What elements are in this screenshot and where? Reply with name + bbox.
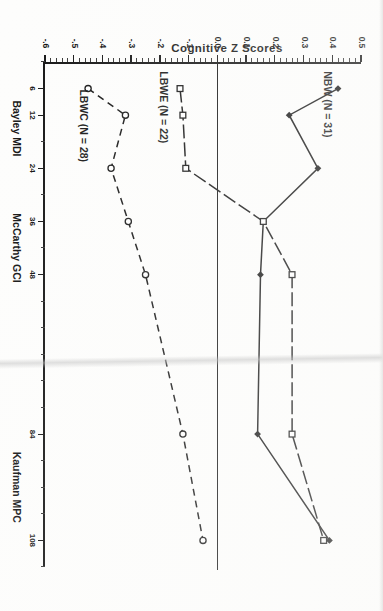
data-point-marker — [257, 271, 264, 278]
data-point-marker — [177, 86, 183, 92]
series-label-nbw: NBW (N = 31) — [322, 71, 334, 137]
figure-canvas: Cognitive Z Scores AGE IN MONTHS 0.50.40… — [0, 0, 383, 611]
series-label-lbwe: LBWE (N = 22) — [158, 71, 170, 143]
data-point-marker — [289, 272, 295, 278]
data-point-marker — [335, 85, 342, 92]
rotated-figure-frame: Cognitive Z Scores AGE IN MONTHS 0.50.40… — [0, 0, 383, 611]
data-point-marker — [321, 538, 327, 544]
data-point-marker — [125, 218, 131, 224]
figure-page: Cognitive Z Scores AGE IN MONTHS 0.50.40… — [0, 0, 383, 611]
data-point-marker — [289, 431, 295, 437]
data-point-marker — [260, 219, 266, 225]
data-point-marker — [183, 165, 189, 171]
series-line — [88, 89, 203, 541]
data-point-marker — [200, 537, 206, 543]
data-point-marker — [180, 112, 186, 118]
data-point-marker — [142, 272, 148, 278]
series-line — [258, 89, 338, 541]
data-point-marker — [122, 112, 128, 118]
series-line — [180, 89, 324, 541]
data-point-marker — [180, 431, 186, 437]
series-label-lbwc: LBWC (N = 28) — [78, 89, 90, 162]
data-point-marker — [108, 165, 114, 171]
data-point-marker — [286, 112, 293, 119]
